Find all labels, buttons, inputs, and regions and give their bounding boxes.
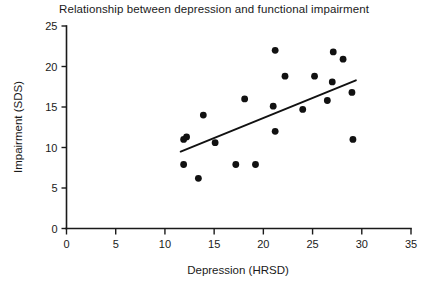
x-tick-label: 30	[356, 238, 368, 250]
data-point	[349, 89, 356, 96]
data-points-group	[180, 47, 356, 182]
y-tick-label: 5	[51, 182, 57, 194]
data-point	[252, 161, 259, 168]
data-point	[329, 78, 336, 85]
x-axis-ticks	[67, 229, 412, 235]
scatter-plot-figure: Relationship between depression and func…	[0, 0, 428, 284]
data-point	[195, 175, 202, 182]
data-point	[180, 161, 187, 168]
y-axis-title: Impairment (SDS)	[12, 81, 24, 173]
y-axis-tick-labels: 0510152025	[45, 20, 57, 235]
x-tick-label: 10	[159, 238, 171, 250]
data-point	[272, 47, 279, 54]
y-tick-label: 20	[45, 61, 57, 73]
data-point	[183, 134, 190, 141]
x-axis-title: Depression (HRSD)	[187, 264, 289, 276]
plot-canvas: 0510152025 05101520253035 Depression (HR…	[0, 0, 428, 284]
regression-line	[181, 80, 356, 151]
data-point	[330, 49, 337, 56]
data-point	[299, 106, 306, 113]
x-tick-label: 0	[63, 238, 69, 250]
y-tick-label: 10	[45, 142, 57, 154]
data-point	[324, 97, 331, 104]
data-point	[212, 139, 219, 146]
data-point	[340, 56, 347, 63]
data-point	[350, 136, 357, 143]
data-point	[282, 73, 289, 80]
data-point	[272, 128, 279, 135]
x-tick-label: 5	[113, 238, 119, 250]
y-tick-label: 15	[45, 101, 57, 113]
x-axis-tick-labels: 05101520253035	[63, 238, 417, 250]
data-point	[270, 103, 277, 110]
data-point	[311, 73, 318, 80]
data-point	[200, 112, 207, 119]
x-tick-label: 15	[208, 238, 220, 250]
x-tick-label: 25	[306, 238, 318, 250]
y-tick-label: 25	[45, 20, 57, 32]
data-point	[232, 161, 239, 168]
x-tick-label: 35	[405, 238, 417, 250]
data-point	[241, 96, 248, 103]
x-tick-label: 20	[257, 238, 269, 250]
y-tick-label: 0	[51, 223, 57, 235]
